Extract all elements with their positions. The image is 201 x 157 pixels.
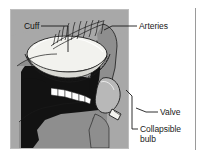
leader-line-valve (136, 108, 158, 112)
label-arteries: Arteries (139, 22, 168, 32)
label-valve: Valve (160, 108, 180, 118)
label-cuff: Cuff (24, 22, 39, 32)
figure-container: Cuff Arteries Valve Collapsible bulb (0, 0, 201, 157)
label-collapsible-bulb: Collapsible bulb (140, 125, 181, 144)
vertical-rule (195, 8, 196, 150)
